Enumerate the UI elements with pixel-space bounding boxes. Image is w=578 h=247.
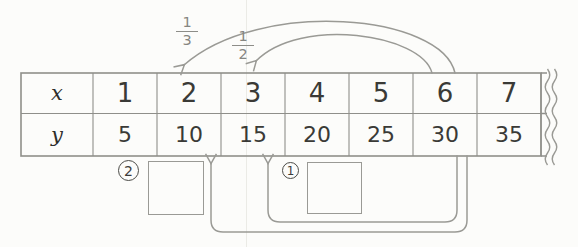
x-value-cell: 7	[477, 73, 541, 113]
x-value-cell: 1	[93, 73, 157, 113]
torn-edge-wavy-lines	[545, 69, 557, 165]
answer-box-1	[307, 162, 362, 214]
fraction-label-one-half: 1 2	[232, 28, 254, 63]
x-row-header: x	[21, 73, 93, 113]
x-value-cell: 3	[221, 73, 285, 113]
fraction-denominator: 2	[232, 46, 254, 63]
y-value-cell: 15	[221, 113, 285, 156]
fraction-numerator: 1	[232, 28, 254, 46]
y-row-header: y	[21, 113, 93, 156]
answer-box-2	[148, 161, 204, 215]
y-value-cell: 35	[477, 113, 541, 156]
fraction-label-one-third: 1 3	[176, 14, 198, 49]
x-value-cell: 4	[285, 73, 349, 113]
fraction-numerator: 1	[176, 14, 198, 32]
circled-label-1: 1	[282, 162, 299, 179]
worksheet-diagram: x 1 2 3 4 5 6 7 y 5 10 15 20 25 30 35 1 …	[0, 0, 578, 247]
x-value-cell: 5	[349, 73, 413, 113]
y-value-cell: 20	[285, 113, 349, 156]
x-value-cell: 6	[413, 73, 477, 113]
y-value-cell: 30	[413, 113, 477, 156]
fraction-denominator: 3	[176, 32, 198, 49]
arc-arrow-one-third-from-6-to-2	[184, 21, 455, 73]
x-value-cell: 2	[157, 73, 221, 113]
arc-arrow-one-half-from-6-to-3	[256, 35, 432, 73]
y-value-cell: 10	[157, 113, 221, 156]
y-value-cell: 25	[349, 113, 413, 156]
circled-label-2: 2	[118, 160, 139, 181]
xy-ratio-table: x 1 2 3 4 5 6 7 y 5 10 15 20 25 30 35	[21, 73, 541, 156]
y-value-cell: 5	[93, 113, 157, 156]
